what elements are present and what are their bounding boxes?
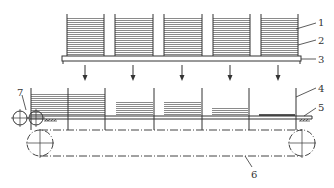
down-arrow-icon [180,65,185,81]
label-2: 2 [318,35,324,46]
top-stack-5 [261,14,298,56]
transfer-arrows [83,65,281,81]
top-stacks-group [67,14,298,56]
stacking-conveyor-diagram: 1 2 3 4 5 6 7 [0,0,334,188]
label-5: 5 [318,102,324,113]
down-arrow-icon [276,65,281,81]
top-stack-2 [115,14,153,56]
conveyor-support-plate [30,116,312,121]
down-arrow-icon [83,65,88,81]
bottom-stacks-group [31,93,295,116]
down-arrow-icon [228,65,233,81]
top-base-plate [62,56,301,64]
top-stack-1 [67,14,104,56]
label-1: 1 [318,17,324,28]
label-4: 4 [318,83,324,94]
top-stack-3 [164,14,202,56]
label-3: 3 [318,54,324,65]
feed-rollers [11,109,45,127]
label-6: 6 [251,169,257,180]
pulley-right-icon [288,129,316,158]
pulley-left-icon [26,129,54,158]
roller-icon [11,109,29,127]
chain-belt [26,129,316,158]
down-arrow-icon [131,65,136,81]
bottom-stack-2 [116,101,153,116]
bottom-stack-4 [212,107,248,116]
label-7: 7 [17,87,23,98]
bottom-stack-3 [164,101,201,116]
top-stack-4 [213,14,250,56]
